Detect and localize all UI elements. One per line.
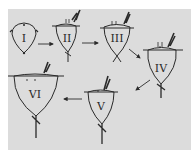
stage-6-stalk xyxy=(32,116,40,138)
stage-2-tuft xyxy=(72,10,80,22)
stage-5-label: V xyxy=(96,100,106,113)
stage-1-label: I xyxy=(22,32,26,45)
stage-3-label: III xyxy=(110,32,123,45)
stage-4: IV xyxy=(143,33,183,98)
stage-5: V xyxy=(84,76,118,144)
stage-1: I xyxy=(10,23,38,54)
stage-6-label: VI xyxy=(28,88,41,101)
stage-3-tuft xyxy=(124,12,130,24)
stage-4-stalk xyxy=(157,84,165,98)
arrow-4-to-5 xyxy=(136,80,150,90)
stage-2-stalk xyxy=(65,52,71,62)
stage-4-tuft xyxy=(168,33,175,47)
stage-3-stalk xyxy=(113,56,121,62)
stage-2-label: II xyxy=(63,32,72,45)
stage-2: II xyxy=(52,10,80,62)
developmental-stages-diagram: I II III IV V xyxy=(0,0,195,154)
stage-5-stalk xyxy=(98,124,106,144)
stage-3: III xyxy=(100,12,134,62)
stage-6: VI xyxy=(8,62,64,138)
arrow-3-to-4 xyxy=(129,49,140,58)
stage-4-label: IV xyxy=(155,62,168,75)
stage-6-tuft xyxy=(44,62,50,73)
stage-5-tuft xyxy=(104,76,110,90)
